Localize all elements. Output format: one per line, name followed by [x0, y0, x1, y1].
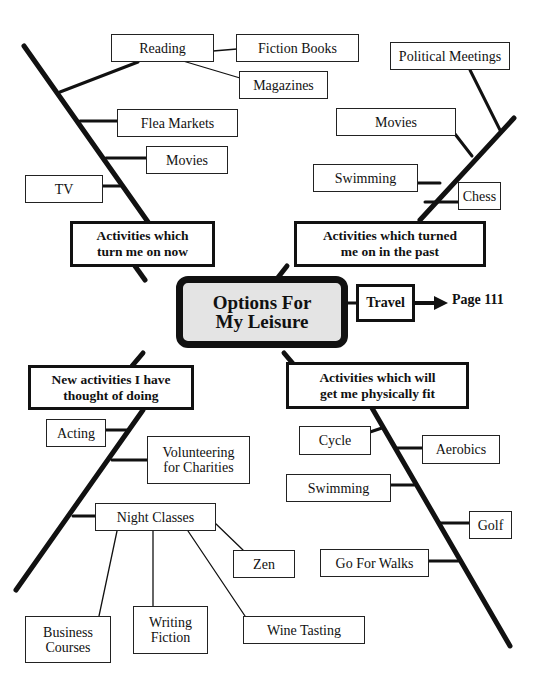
- category-past-line2: me on in the past: [323, 244, 457, 260]
- category-past: Activities which turnedme on in the past: [294, 221, 486, 267]
- category-fit-line2: get me physically fit: [319, 386, 435, 402]
- central-topic: Options For My Leisure: [176, 276, 348, 348]
- item-acting: Acting: [46, 419, 106, 447]
- item-business-line1: Business: [43, 625, 93, 640]
- category-now-line1: Activities which: [97, 228, 189, 244]
- central-topic-line1: Options For: [213, 293, 312, 312]
- item-writing-line1: Writing: [149, 615, 192, 630]
- item-cycle: Cycle: [299, 426, 371, 455]
- item-business-line2: Courses: [43, 640, 93, 655]
- item-volunteering-line1: Volunteering: [162, 445, 234, 460]
- item-zen: Zen: [233, 550, 295, 578]
- travel-box: Travel: [356, 284, 415, 322]
- item-fiction-books: Fiction Books: [236, 34, 359, 62]
- item-wine-tasting: Wine Tasting: [243, 616, 365, 644]
- item-chess: Chess: [458, 182, 501, 210]
- category-past-line1: Activities which turned: [323, 228, 457, 244]
- item-magazines: Magazines: [239, 71, 328, 99]
- travel-label: Travel: [366, 295, 405, 311]
- category-new-line1: New activities I have: [52, 372, 171, 388]
- category-now-line2: turn me on now: [97, 244, 189, 260]
- item-political-meetings: Political Meetings: [390, 42, 510, 70]
- item-night-classes: Night Classes: [95, 503, 216, 531]
- item-volunteering: Volunteeringfor Charities: [147, 436, 250, 484]
- item-reading: Reading: [111, 34, 214, 62]
- item-aerobics: Aerobics: [422, 435, 500, 464]
- category-new-line2: thought of doing: [52, 388, 171, 404]
- item-tv: TV: [25, 175, 103, 203]
- item-movies-now: Movies: [146, 146, 228, 174]
- category-now: Activities whichturn me on now: [70, 221, 215, 267]
- category-fit-line1: Activities which will: [319, 370, 435, 386]
- item-swimming-fit: Swimming: [286, 474, 391, 502]
- item-golf: Golf: [469, 511, 512, 539]
- item-volunteering-line2: for Charities: [162, 460, 234, 475]
- item-swimming-past: Swimming: [313, 164, 418, 192]
- item-writing-fiction: WritingFiction: [133, 606, 208, 654]
- page-reference: Page 111: [452, 292, 504, 308]
- item-movies-past: Movies: [336, 108, 456, 136]
- item-flea-markets: Flea Markets: [117, 109, 238, 137]
- category-new: New activities I havethought of doing: [28, 365, 194, 410]
- central-topic-line2: My Leisure: [213, 312, 312, 331]
- arrow-icon: [434, 296, 448, 310]
- category-fit: Activities which willget me physically f…: [286, 362, 469, 409]
- item-go-for-walks: Go For Walks: [320, 549, 429, 577]
- item-writing-line2: Fiction: [149, 630, 192, 645]
- item-business-courses: BusinessCourses: [25, 616, 111, 663]
